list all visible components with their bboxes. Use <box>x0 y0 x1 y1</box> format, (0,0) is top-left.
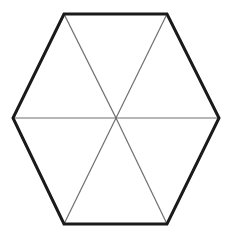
triangle-spokes <box>13 14 219 224</box>
spoke-line-1 <box>64 14 116 118</box>
spoke-line-2 <box>116 14 167 118</box>
hexagon-diagram <box>0 0 230 235</box>
spoke-line-5 <box>64 118 116 224</box>
hexagon-figure <box>0 0 230 235</box>
spoke-line-4 <box>116 118 167 224</box>
